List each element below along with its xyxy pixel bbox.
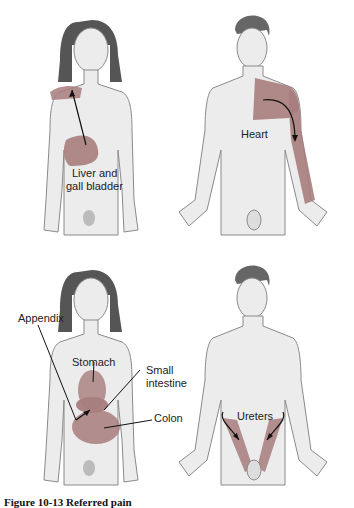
figure-caption: Figure 10-13 Referred pain — [4, 496, 132, 508]
label-stomach: Stomach — [72, 356, 115, 368]
male-figure-illustration — [177, 250, 354, 495]
label-appendix: Appendix — [18, 312, 64, 324]
liver-region — [64, 135, 98, 166]
panel-liver-gallbladder: Liver and gall bladder — [0, 0, 177, 245]
label-gall-bladder: gall bladder — [66, 180, 123, 192]
female-figure-illustration — [0, 0, 177, 245]
male-figure-illustration — [177, 0, 354, 245]
panel-heart: Heart — [177, 0, 354, 245]
panel-ureters: Ureters — [177, 250, 354, 495]
label-ureters: Ureters — [237, 410, 273, 422]
label-heart: Heart — [241, 128, 268, 140]
label-liver: Liver and — [72, 167, 117, 179]
referred-pain-shoulder — [50, 86, 82, 100]
referred-pain-arm — [289, 90, 315, 204]
label-small: Small — [146, 364, 174, 376]
panel-abdominal-organs: Appendix Stomach Small intestine Colon — [0, 250, 177, 495]
